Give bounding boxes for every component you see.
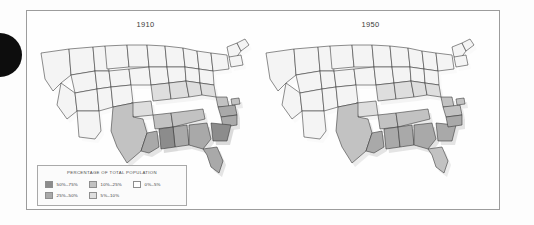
legend-item-10-25: 10%–25%: [89, 181, 133, 188]
legend-title: PERCENTAGE OF TOTAL POPULATION: [38, 170, 186, 175]
legend-swatch-25-50: [45, 192, 53, 199]
legend-label-10-25: 10%–25%: [101, 182, 122, 187]
us-choropleth-map-1910: [31, 27, 263, 177]
legend-label-25-50: 25%–50%: [57, 193, 78, 198]
legend-item-5-10: 5%–10%: [89, 192, 133, 199]
legend-swatch-50-75: [45, 181, 53, 188]
legend-items: 50%–75% 10%–25% 0%–5% 25%–50% 5%–10%: [45, 179, 186, 201]
legend-item-25-50: 25%–50%: [45, 192, 89, 199]
legend-item-50-75: 50%–75%: [45, 181, 89, 188]
page-edge-bleed-mark: [0, 33, 22, 77]
us-choropleth-map-1950: [256, 27, 488, 177]
page-background: 1910: [0, 0, 534, 225]
legend-label-0-5: 0%–5%: [145, 182, 161, 187]
legend-swatch-0-5: [133, 181, 141, 188]
legend-item-0-5: 0%–5%: [133, 181, 177, 188]
legend-swatch-5-10: [89, 192, 97, 199]
map-legend: PERCENTAGE OF TOTAL POPULATION 50%–75% 1…: [37, 165, 187, 206]
legend-swatch-10-25: [89, 181, 97, 188]
figure-frame: 1910: [26, 10, 500, 210]
legend-label-50-75: 50%–75%: [57, 182, 78, 187]
map-panel-1950: 1950: [252, 11, 489, 211]
legend-label-5-10: 5%–10%: [101, 193, 120, 198]
